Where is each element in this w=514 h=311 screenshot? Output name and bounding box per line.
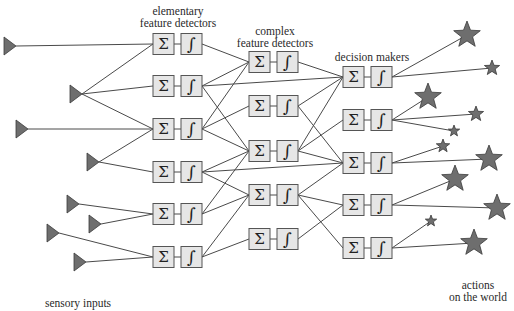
action-star-icon [448, 125, 459, 136]
sensor-triangle-icon [89, 215, 101, 233]
sum-symbol-icon: Σ [254, 230, 265, 248]
sum-symbol-icon: Σ [158, 120, 169, 138]
unit-2: Σ∫ [249, 185, 298, 206]
connection-line [79, 204, 153, 214]
connection-line [298, 77, 343, 106]
integral-symbol-icon: ∫ [283, 141, 292, 161]
connection-line [82, 44, 153, 94]
sensor-triangle-icon [74, 253, 86, 271]
unit-1: Σ∫ [153, 162, 202, 183]
integral-symbol-icon: ∫ [187, 34, 196, 54]
sum-symbol-icon: Σ [254, 53, 265, 71]
connection-line [392, 68, 492, 77]
connection-line [99, 129, 153, 162]
sensor-triangle-icon [47, 224, 59, 242]
integral-symbol-icon: ∫ [283, 52, 292, 72]
complex-feature-detectors-label: complex feature detectors [225, 25, 325, 49]
connection-line [59, 233, 153, 257]
connection-line [392, 221, 431, 248]
connection-line [202, 62, 249, 86]
unit-2: Σ∫ [249, 52, 298, 73]
unit-1: Σ∫ [153, 119, 202, 140]
sum-symbol-icon: Σ [158, 163, 169, 181]
connection-line [392, 159, 489, 163]
sum-symbol-icon: Σ [348, 154, 359, 172]
integral-symbol-icon: ∫ [377, 153, 386, 173]
connection-line [392, 146, 443, 163]
unit-3: Σ∫ [343, 110, 392, 131]
unit-2: Σ∫ [249, 229, 298, 250]
unit-3: Σ∫ [343, 67, 392, 88]
connection-line [298, 120, 343, 151]
connection-line [298, 151, 343, 163]
unit-1: Σ∫ [153, 204, 202, 225]
actions-label-line2: on the world [438, 291, 514, 303]
connection-line [298, 62, 343, 77]
connection-line [392, 114, 476, 120]
connection-line [86, 257, 153, 262]
actions-on-the-world-label: actions on the world [438, 279, 514, 303]
elementary-label-line1: elementary [128, 5, 228, 17]
connection-line [202, 106, 249, 129]
connection-line [392, 179, 455, 205]
sum-symbol-icon: Σ [158, 248, 169, 266]
sensor-triangle-icon [87, 153, 99, 171]
processing-units: Σ∫Σ∫Σ∫Σ∫Σ∫Σ∫Σ∫Σ∫Σ∫Σ∫Σ∫Σ∫Σ∫Σ∫Σ∫Σ∫ [153, 34, 392, 268]
connection-line [202, 163, 343, 172]
connection-line [101, 214, 153, 224]
connection-line [202, 129, 249, 151]
unit-2: Σ∫ [249, 96, 298, 117]
integral-symbol-icon: ∫ [187, 119, 196, 139]
unit-1: Σ∫ [153, 34, 202, 55]
connection-line [298, 205, 343, 239]
connection-line [82, 86, 153, 94]
action-star-icon [415, 83, 442, 108]
unit-2: Σ∫ [249, 141, 298, 162]
action-star-icon [454, 21, 481, 46]
action-star-icon [461, 229, 488, 254]
connection-line [202, 77, 343, 86]
sum-symbol-icon: Σ [158, 35, 169, 53]
unit-1: Σ∫ [153, 76, 202, 97]
integral-symbol-icon: ∫ [377, 238, 386, 258]
action-star-icon [484, 194, 511, 219]
integral-symbol-icon: ∫ [377, 195, 386, 215]
sum-symbol-icon: Σ [158, 77, 169, 95]
sum-symbol-icon: Σ [348, 68, 359, 86]
sum-symbol-icon: Σ [254, 97, 265, 115]
unit-3: Σ∫ [343, 195, 392, 216]
unit-3: Σ∫ [343, 238, 392, 259]
sum-symbol-icon: Σ [348, 239, 359, 257]
connection-line [392, 205, 497, 208]
action-star-icon [436, 139, 449, 152]
integral-symbol-icon: ∫ [283, 96, 292, 116]
action-star-icon [442, 165, 469, 190]
action-star-icon [484, 60, 499, 75]
unit-1: Σ∫ [153, 247, 202, 268]
unit-3: Σ∫ [343, 153, 392, 174]
connection-line [202, 151, 249, 172]
sensor-triangle-icon [70, 85, 82, 103]
integral-symbol-icon: ∫ [187, 76, 196, 96]
integral-symbol-icon: ∫ [187, 247, 196, 267]
decision-makers-label: decision makers [322, 51, 422, 63]
complex-label-line2: feature detectors [225, 37, 325, 49]
connection-line [99, 162, 153, 172]
sensor-triangle-icon [4, 37, 16, 55]
integral-symbol-icon: ∫ [187, 204, 196, 224]
sensory-inputs-label: sensory inputs [38, 297, 118, 309]
sum-symbol-icon: Σ [158, 205, 169, 223]
complex-label-line1: complex [225, 25, 325, 37]
connection-line [202, 172, 249, 195]
elementary-label-line2: feature detectors [128, 17, 228, 29]
sensor-triangle-icon [16, 120, 28, 138]
action-star-icon [468, 106, 483, 121]
sum-symbol-icon: Σ [348, 111, 359, 129]
sum-symbol-icon: Σ [254, 142, 265, 160]
connection-line [392, 243, 474, 248]
integral-symbol-icon: ∫ [283, 185, 292, 205]
integral-symbol-icon: ∫ [187, 162, 196, 182]
elementary-feature-detectors-label: elementary feature detectors [128, 5, 228, 29]
actions-label-line1: actions [438, 279, 514, 291]
integral-symbol-icon: ∫ [377, 67, 386, 87]
